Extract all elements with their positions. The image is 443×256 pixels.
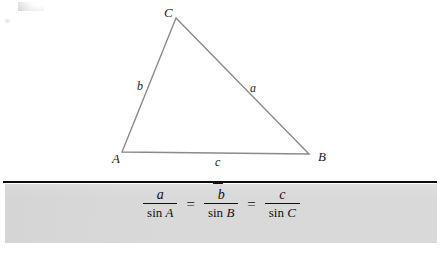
denominator-sin-c: sin C bbox=[265, 204, 300, 219]
fraction-c-over-sin-c: c sin C bbox=[265, 188, 300, 219]
triangle-diagram bbox=[0, 0, 443, 180]
angle-variable-b: B bbox=[226, 205, 234, 220]
angle-variable-c: C bbox=[287, 205, 296, 220]
sin-function-2: sin bbox=[208, 205, 223, 220]
side-label-c: c bbox=[215, 156, 220, 168]
vertex-label-b: B bbox=[318, 150, 326, 163]
triangle-shape bbox=[122, 18, 309, 154]
vertex-label-a: A bbox=[112, 152, 120, 165]
figure-page: C A B b a c a sin A = b sin B = c sin C bbox=[0, 0, 443, 256]
equals-sign-2: = bbox=[244, 196, 258, 213]
numerator-c: c bbox=[275, 188, 289, 203]
denominator-sin-a: sin A bbox=[143, 204, 177, 219]
fraction-b-over-sin-b: b sin B bbox=[204, 188, 238, 219]
sin-function-3: sin bbox=[269, 205, 284, 220]
denominator-sin-b: sin B bbox=[204, 204, 238, 219]
equals-sign-1: = bbox=[183, 196, 197, 213]
angle-variable-a: A bbox=[166, 205, 174, 220]
side-label-b: b bbox=[137, 80, 143, 92]
sin-function-1: sin bbox=[147, 205, 162, 220]
vertex-label-c: C bbox=[164, 6, 173, 19]
numerator-b: b bbox=[214, 188, 229, 203]
numerator-a: a bbox=[153, 188, 168, 203]
side-label-a: a bbox=[250, 82, 256, 94]
fraction-a-over-sin-a: a sin A bbox=[143, 188, 177, 219]
law-of-sines-formula: a sin A = b sin B = c sin C bbox=[0, 188, 443, 219]
